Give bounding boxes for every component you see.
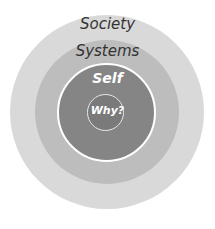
self-label: Self [0,70,215,86]
society-label: Society [0,15,215,33]
systems-label: Systems [0,42,215,60]
why-label: Why? [0,104,215,117]
